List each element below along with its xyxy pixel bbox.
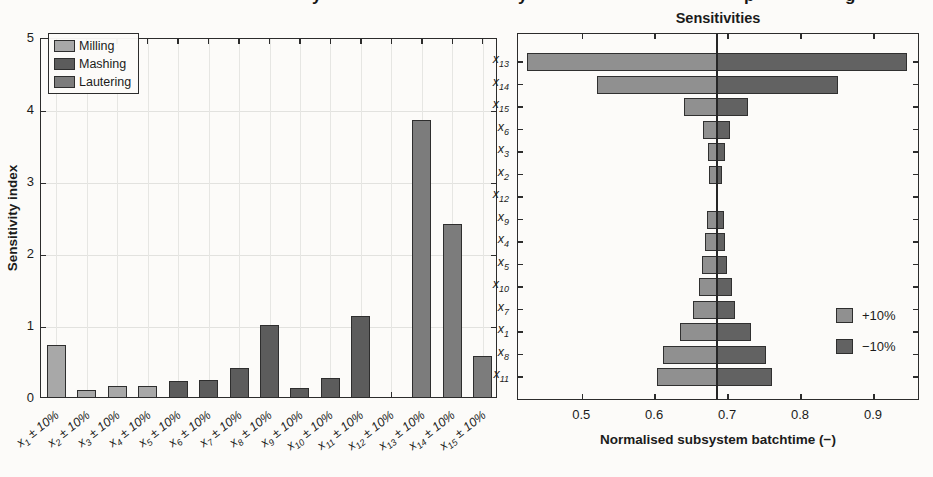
gridline-x-9 [300,39,301,397]
y-tick-mark-left [518,331,523,332]
x-tick-mark-top [177,39,178,44]
tornado-minus10-segment-x3 [717,143,725,161]
legend-swatch-milling [54,40,75,52]
legend-label: +10% [862,308,896,323]
sensitivity-bar-x8 [260,325,279,397]
legend-entry-mashing: Mashing [54,57,131,71]
tornado-minus10-segment-x1 [717,323,751,341]
right-chart-x-axis-label: Normalised subsystem batchtime (−) [517,432,919,447]
y-tick-mark-left [518,106,523,107]
y-tick-mark-left [518,61,523,62]
gridline-x-12 [391,39,392,397]
x-tick-label-0.6: 0.6 [637,407,671,422]
tornado-plus10-segment-x5 [702,256,717,274]
y-tick-label-5: 5 [12,30,34,45]
x-tick-mark-top [452,39,453,44]
legend-entry-milling: Milling [54,39,131,53]
gridline-x-10 [330,39,331,397]
x-tick-mark-top [299,39,300,44]
tornado-minus10-segment-x9 [717,211,724,229]
sensitivity-bar-x15 [473,356,492,397]
gridline-x-4 [148,39,149,397]
y-tick-mark-right [491,183,496,184]
x-tick-label-0.5: 0.5 [564,407,598,422]
x-tick-mark-bottom [654,394,655,399]
tornado-minus10-segment-x10 [717,278,732,296]
tornado-minus10-segment-x6 [717,121,729,139]
x-tick-mark-top [582,34,583,39]
y-tick-mark-left [41,183,46,184]
y-tick-mark-left [518,241,523,242]
right-chart-legend: +10%−10% [836,308,896,354]
legend-label: Lautering [79,75,131,89]
y-tick-mark-left [518,286,523,287]
y-tick-label-x15: x15 [479,97,509,114]
x-tick-mark-bottom [391,392,392,397]
cropped-glyph-fragment: y [312,0,326,7]
x-tick-label-0.7: 0.7 [710,407,744,422]
sensitivity-bar-x10 [321,378,340,397]
sensitivity-bar-x2 [77,390,96,397]
y-tick-label-x7: x7 [479,300,509,317]
tornado-minus10-segment-x11 [717,368,772,386]
gridline-x-7 [239,39,240,397]
sensitivity-bar-x13 [412,120,431,397]
y-tick-mark-right [913,196,918,197]
y-tick-mark-left [518,196,523,197]
legend-label: Milling [79,39,114,53]
sensitivity-bar-x14 [443,224,462,397]
x-tick-mark-top [330,39,331,44]
tornado-plus10-segment-x6 [703,121,718,139]
y-tick-mark-left [518,219,523,220]
y-tick-label-x4: x4 [479,232,509,249]
y-tick-mark-right [913,61,918,62]
y-tick-mark-left [518,129,523,130]
sensitivity-bar-x3 [108,386,127,397]
y-tick-label-x2: x2 [479,165,509,182]
y-tick-mark-right [913,309,918,310]
y-tick-mark-right [913,84,918,85]
x-tick-mark-bottom [873,394,874,399]
y-tick-mark-left [518,174,523,175]
sensitivity-bar-x5 [169,381,188,397]
sensitivity-bar-x1 [47,345,66,397]
y-tick-label-x1: x1 [479,322,509,339]
sensitivity-bar-x9 [290,388,309,397]
y-tick-mark-right [913,286,918,287]
y-tick-label-x3: x3 [479,142,509,159]
gridline-x-5 [178,39,179,397]
legend-swatch-mashing [54,58,75,70]
legend-swatch-minus10pct [836,339,853,354]
cropped-glyph-fragment: g [845,0,859,7]
y-tick-mark-right [913,354,918,355]
tornado-plus10-segment-x10 [699,278,717,296]
y-tick-mark-right [913,219,918,220]
x-tick-mark-top [269,39,270,44]
sensitivity-bar-x6 [199,380,218,397]
tornado-plus10-segment-x15 [684,98,717,116]
gridline-x-6 [209,39,210,397]
y-tick-label-x13: x13 [479,52,509,69]
x-tick-mark-bottom [582,394,583,399]
y-tick-label-0: 0 [12,390,34,405]
sensitivity-bar-x7 [230,368,249,397]
figure-canvas: yypg Sensitivity index 012345 x1 ± 10%x2… [0,0,933,477]
legend-label: −10% [862,339,896,354]
sensitivity-bar-x11 [351,316,370,397]
right-chart-title: Sensitivities [517,10,919,26]
y-tick-label-x10: x10 [479,277,509,294]
y-tick-mark-left [518,264,523,265]
y-tick-label-4: 4 [12,102,34,117]
y-tick-mark-right [913,264,918,265]
tornado-minus10-segment-x5 [717,256,727,274]
y-tick-mark-right [913,376,918,377]
x-tick-mark-top [391,39,392,44]
y-tick-label-1: 1 [12,318,34,333]
y-tick-label-x14: x14 [479,75,509,92]
y-tick-mark-left [41,255,46,256]
y-tick-label-3: 3 [12,174,34,189]
y-tick-mark-left [518,84,523,85]
y-tick-mark-left [518,354,523,355]
gridline-y-4 [41,111,496,112]
x-tick-mark-top [208,39,209,44]
